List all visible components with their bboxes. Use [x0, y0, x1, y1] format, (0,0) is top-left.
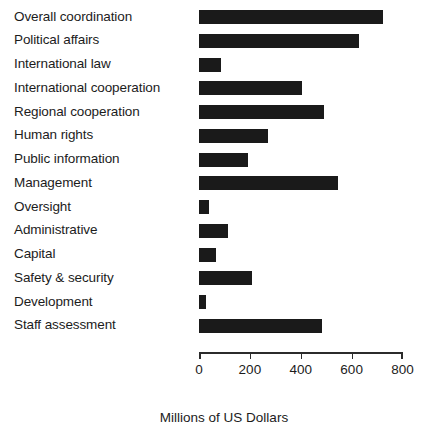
- x-axis-tick-label: 600: [340, 362, 363, 378]
- bar: [199, 10, 383, 24]
- bar: [199, 176, 338, 190]
- bar: [199, 248, 216, 262]
- bar: [199, 34, 359, 48]
- bar: [199, 271, 252, 285]
- x-axis-tick: [250, 352, 252, 359]
- x-axis-title: Millions of US Dollars: [0, 410, 430, 425]
- x-axis-tick-label: 0: [195, 362, 203, 378]
- x-axis-tick-label: 400: [289, 362, 312, 378]
- x-axis-tick: [301, 352, 303, 359]
- bar: [199, 58, 221, 72]
- bar: [199, 224, 228, 238]
- x-axis-tick: [352, 352, 354, 359]
- horizontal-bar-chart: Overall coordinationPolitical affairsInt…: [0, 0, 430, 438]
- bar: [199, 129, 268, 143]
- x-axis-tick: [199, 352, 201, 359]
- x-axis-tick-label: 800: [391, 362, 414, 378]
- bar: [199, 319, 322, 333]
- bar: [199, 200, 209, 214]
- bar: [199, 105, 324, 119]
- x-axis-title-text: Millions of US Dollars: [142, 410, 288, 425]
- x-axis-tick-label: 200: [239, 362, 262, 378]
- plot-area: [0, 0, 430, 352]
- bar: [199, 81, 302, 95]
- x-axis-tick: [401, 352, 403, 359]
- bar: [199, 295, 206, 309]
- bar: [199, 153, 248, 167]
